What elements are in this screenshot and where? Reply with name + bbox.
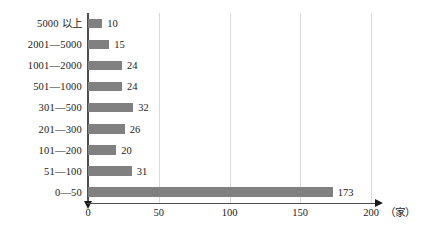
category-label: 201—300: [0, 119, 82, 140]
horizontal-bar-chart: 5000 以上 10 2001—5000 15 1001—2000 24 501…: [0, 0, 430, 246]
category-label: 51—100: [0, 161, 82, 182]
bar: [88, 19, 102, 29]
bar-value-label: 173: [338, 182, 354, 203]
category-label: 1001—2000: [0, 55, 82, 76]
bar-value-label: 31: [137, 161, 148, 182]
category-label: 101—200: [0, 140, 82, 161]
bar-row: 5000 以上 10: [0, 13, 430, 34]
x-axis-unit-label: （家）: [385, 206, 415, 220]
bar-value-label: 24: [127, 55, 138, 76]
bar-row: 51—100 31: [0, 161, 430, 182]
bar: [88, 82, 122, 92]
x-tick-label: 0: [68, 206, 108, 220]
bar: [88, 124, 125, 134]
category-label: 2001—5000: [0, 34, 82, 55]
category-label: 5000 以上: [0, 13, 82, 34]
bar-row: 101—200 20: [0, 140, 430, 161]
category-label: 301—500: [0, 97, 82, 118]
category-label: 0—50: [0, 182, 82, 203]
bar-value-label: 26: [130, 119, 141, 140]
bar-row: 501—1000 24: [0, 76, 430, 97]
bar-row: 2001—5000 15: [0, 34, 430, 55]
x-tick-label: 150: [280, 206, 320, 220]
bar-row: 301—500 32: [0, 97, 430, 118]
x-tick-label: 50: [139, 206, 179, 220]
bar-value-label: 15: [114, 34, 125, 55]
bar-value-label: 24: [127, 76, 138, 97]
bar-row: 201—300 26: [0, 119, 430, 140]
x-tick-label: 100: [210, 206, 250, 220]
category-label: 501—1000: [0, 76, 82, 97]
bar: [88, 40, 109, 50]
bar: [88, 145, 116, 155]
bar: [88, 103, 133, 113]
bar-row: 0—50 173: [0, 182, 430, 203]
bar: [88, 166, 132, 176]
bar-value-label: 10: [107, 13, 118, 34]
bar-row: 1001—2000 24: [0, 55, 430, 76]
bar-value-label: 32: [138, 97, 149, 118]
bar-value-label: 20: [121, 140, 132, 161]
bar: [88, 61, 122, 71]
bar: [88, 187, 333, 197]
